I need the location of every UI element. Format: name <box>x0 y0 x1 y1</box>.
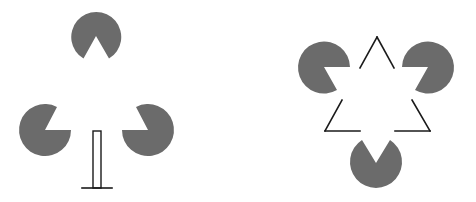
triangle-lower-left-segment <box>325 100 342 131</box>
pacman-top-left-panel <box>71 12 121 59</box>
pacman-right-right-panel <box>402 41 454 93</box>
triangle-apex-right-segment <box>377 37 394 68</box>
pacman-left-right-panel <box>298 41 350 93</box>
left-panel <box>19 12 174 188</box>
pacman-bottom-right-panel <box>350 140 402 188</box>
pacman-left-left-panel <box>19 104 71 156</box>
post-rectangle <box>93 131 101 188</box>
triangle-apex-left-segment <box>360 37 377 68</box>
kanizsa-figure <box>0 0 476 202</box>
triangle-lower-right-segment <box>412 100 430 131</box>
pacman-right-left-panel <box>122 104 174 156</box>
right-panel <box>298 37 454 188</box>
